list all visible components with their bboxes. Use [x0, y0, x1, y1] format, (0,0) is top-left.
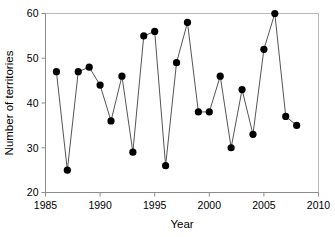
x-tick-label: 1985: [34, 199, 58, 211]
data-point-marker: [97, 82, 104, 89]
data-point-marker: [228, 144, 235, 151]
x-tick-label: 1995: [143, 199, 167, 211]
data-series-line: [56, 14, 296, 171]
y-axis-title: Number of territories: [3, 50, 15, 155]
data-point-marker: [107, 117, 114, 124]
data-point-marker: [118, 73, 125, 80]
data-point-marker: [129, 149, 136, 156]
x-tick-label: 1990: [88, 199, 112, 211]
data-point-marker: [238, 86, 245, 93]
data-point-marker: [217, 73, 224, 80]
data-point-marker: [282, 113, 289, 120]
data-point-marker: [75, 68, 82, 75]
y-tick-label: 50: [27, 52, 39, 64]
data-point-marker: [184, 19, 191, 26]
data-point-marker: [206, 108, 213, 115]
data-point-marker: [249, 131, 256, 138]
territories-line-chart: 2030405060198519901995200020052010YearNu…: [0, 0, 335, 237]
data-point-marker: [260, 46, 267, 53]
data-point-marker: [293, 122, 300, 129]
y-tick-label: 30: [27, 142, 39, 154]
data-point-marker: [195, 108, 202, 115]
data-point-marker: [173, 59, 180, 66]
y-tick-label: 20: [27, 186, 39, 198]
data-point-marker: [151, 28, 158, 35]
data-point-marker: [162, 162, 169, 169]
data-point-marker: [86, 64, 93, 71]
x-tick-label: 2000: [198, 199, 222, 211]
data-point-marker: [53, 68, 60, 75]
y-tick-label: 40: [27, 97, 39, 109]
chart-container: 2030405060198519901995200020052010YearNu…: [0, 0, 335, 237]
data-point-marker: [271, 10, 278, 17]
data-point-marker: [64, 167, 71, 174]
x-tick-label: 2005: [252, 199, 276, 211]
x-tick-label: 2010: [307, 199, 331, 211]
y-tick-label: 60: [27, 7, 39, 19]
x-axis-title: Year: [170, 218, 193, 230]
data-point-marker: [140, 32, 147, 39]
